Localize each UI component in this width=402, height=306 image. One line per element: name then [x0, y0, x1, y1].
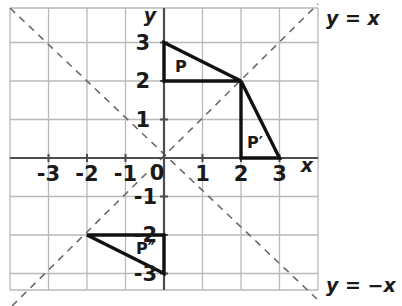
y-tick-label-3: 3	[135, 31, 150, 55]
y-tick-label-2: 2	[135, 69, 150, 93]
triangle-p-prime-label: P′	[247, 133, 263, 152]
x-tick-label-1: 1	[195, 162, 210, 186]
figure-background	[0, 0, 402, 306]
coordinate-grid-figure: y x 0 -3 -2 -1 1 2 3 3 2 1 -1 -2 -3 P P′…	[0, 0, 402, 306]
y-tick-label-neg1: -1	[134, 185, 157, 209]
x-tick-label-neg2: -2	[75, 162, 98, 186]
x-tick-label-neg1: -1	[114, 162, 137, 186]
y-axis-label: y	[144, 4, 158, 26]
label-y-equals-x: y = x	[326, 7, 381, 29]
y-tick-label-neg3: -3	[134, 262, 157, 286]
x-tick-label-3: 3	[272, 162, 287, 186]
x-axis-label: x	[300, 154, 314, 176]
x-tick-label-2: 2	[234, 162, 249, 186]
label-y-equals-minus-x: y = −x	[326, 274, 396, 296]
triangle-p-label: P	[175, 57, 187, 76]
x-tick-label-neg3: -3	[37, 162, 60, 186]
y-tick-label-1: 1	[135, 108, 150, 132]
origin-label: 0	[150, 161, 165, 185]
triangle-p-double-prime-label: P″	[136, 239, 155, 258]
